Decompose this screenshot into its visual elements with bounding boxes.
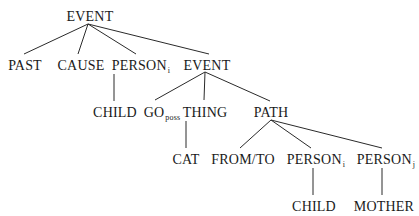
node-child-1: CHILD	[93, 105, 137, 121]
node-cat: CAT	[172, 152, 199, 168]
edge-event-person-i	[88, 24, 136, 54]
node-person-i-2: PERSONi	[287, 152, 345, 173]
edge-event-event	[88, 24, 209, 54]
node-go-poss: GOposs	[144, 105, 181, 126]
node-person-j: PERSONj	[357, 152, 415, 173]
edge-path-person-i	[271, 120, 311, 148]
edge-path-person-j	[271, 120, 382, 148]
node-person-i: PERSONi	[112, 58, 170, 79]
node-event-root: EVENT	[67, 9, 114, 25]
edge-event-path	[205, 72, 270, 101]
node-path: PATH	[254, 105, 289, 121]
node-thing: THING	[183, 105, 228, 121]
node-cause: CAUSE	[58, 58, 105, 74]
node-child-2: CHILD	[292, 199, 336, 215]
node-past: PAST	[8, 58, 42, 74]
edge-event-thing	[204, 72, 205, 100]
node-event-sub: EVENT	[184, 58, 231, 74]
node-from-to: FROM/TO	[211, 152, 274, 168]
edge-path-from-to	[240, 120, 271, 148]
edge-event-past	[24, 24, 88, 54]
node-mother: MOTHER	[354, 199, 414, 215]
